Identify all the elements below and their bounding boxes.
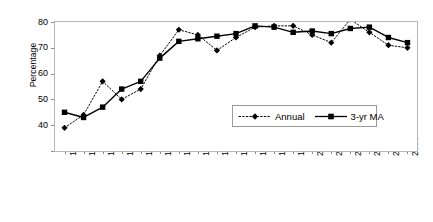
- legend-label-annual: Annual: [275, 111, 305, 122]
- data-point-marker: [176, 39, 181, 44]
- data-point-marker: [233, 31, 238, 36]
- data-point-marker: [405, 40, 410, 45]
- y-axis-title: Percentage: [28, 25, 38, 105]
- data-point-marker: [290, 23, 296, 29]
- data-point-marker: [214, 33, 219, 38]
- data-point-marker: [385, 42, 391, 48]
- legend-entry-annual: Annual: [238, 111, 305, 122]
- legend-entry-3yr-ma: 3-yr MA: [314, 111, 384, 122]
- data-point-marker: [61, 125, 67, 131]
- legend-swatch-solid-square: [314, 112, 348, 121]
- data-point-marker: [81, 115, 86, 120]
- data-point-marker: [329, 31, 334, 36]
- data-point-marker: [271, 24, 276, 29]
- data-point-marker: [366, 29, 372, 35]
- data-point-marker: [119, 86, 124, 91]
- data-point-marker: [62, 110, 67, 115]
- percentage-trend-line-chart: Percentage 4050607080 198719881989199019…: [0, 0, 433, 222]
- data-point-marker: [386, 35, 391, 40]
- data-point-marker: [290, 30, 295, 35]
- chart-legend: Annual 3-yr MA: [232, 105, 377, 127]
- y-tick-label: 40: [24, 121, 48, 130]
- series-plot: [55, 22, 417, 151]
- y-tick-label: 80: [24, 18, 48, 27]
- data-point-marker: [157, 55, 162, 60]
- data-point-marker: [195, 36, 200, 41]
- legend-swatch-dotted-diamond: [238, 112, 272, 121]
- data-point-marker: [138, 86, 144, 92]
- y-tick-label: 60: [24, 69, 48, 78]
- plot-area: [54, 21, 418, 152]
- data-point-marker: [138, 79, 143, 84]
- data-point-marker: [252, 23, 257, 28]
- data-point-marker: [348, 26, 353, 31]
- y-tick-label: 70: [24, 43, 48, 52]
- data-point-marker: [100, 104, 105, 109]
- data-point-marker: [404, 45, 410, 51]
- legend-label-3yr-ma: 3-yr MA: [351, 111, 384, 122]
- y-tick-label: 50: [24, 95, 48, 104]
- data-point-marker: [310, 28, 315, 33]
- data-point-marker: [367, 24, 372, 29]
